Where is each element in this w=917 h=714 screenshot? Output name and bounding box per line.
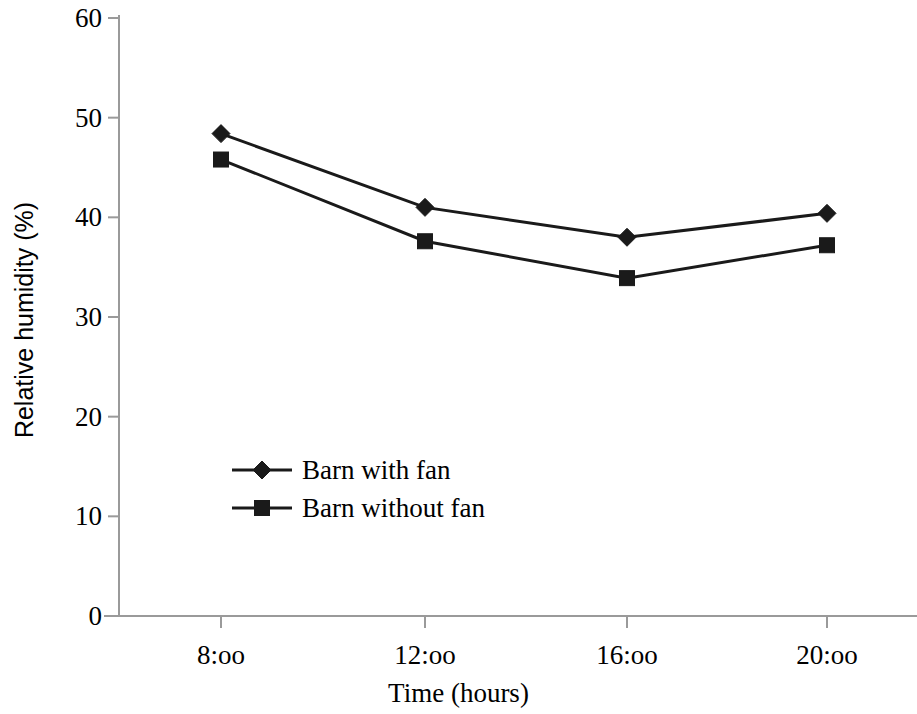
- legend-item-label: Barn with fan: [302, 457, 450, 484]
- x-axis-tick-label: 12:oo: [394, 642, 456, 669]
- x-axis-tick-label: 20:oo: [796, 642, 858, 669]
- line-chart-plot: [0, 0, 917, 714]
- legend-diamond-marker: [253, 461, 271, 479]
- legend-square-marker: [255, 501, 270, 516]
- data-point-square: [820, 238, 835, 253]
- y-axis-tick-label: 20: [40, 403, 102, 430]
- data-point-diamond: [818, 204, 836, 222]
- series-line-diamond: [221, 134, 827, 238]
- x-axis-tick-label: 8:oo: [197, 642, 245, 669]
- data-point-diamond: [212, 125, 230, 143]
- y-axis-title: Relative humidity (%): [12, 202, 37, 438]
- legend-markers: [232, 461, 292, 516]
- chart-series: [212, 125, 836, 286]
- data-point-square: [214, 152, 229, 167]
- data-point-square: [620, 271, 635, 286]
- data-point-diamond: [416, 198, 434, 216]
- x-axis-title: Time (hours): [0, 680, 917, 707]
- x-axis-tick-label: 16:oo: [596, 642, 658, 669]
- y-axis-tick-label: 60: [40, 5, 102, 32]
- series-line-square: [221, 160, 827, 279]
- y-axis-title-container: Relative humidity (%): [0, 0, 48, 714]
- chart-axes: [104, 15, 917, 628]
- y-axis-tick-label: 40: [40, 204, 102, 231]
- legend-item-label: Barn without fan: [302, 495, 485, 522]
- y-axis-tick-label: 0: [40, 603, 102, 630]
- data-point-diamond: [618, 228, 636, 246]
- chart-figure: 0102030405060 8:oo12:oo16:oo20:oo Barn w…: [0, 0, 917, 714]
- y-axis-tick-label: 10: [40, 503, 102, 530]
- data-point-square: [418, 234, 433, 249]
- y-axis-tick-label: 30: [40, 304, 102, 331]
- y-axis-tick-label: 50: [40, 104, 102, 131]
